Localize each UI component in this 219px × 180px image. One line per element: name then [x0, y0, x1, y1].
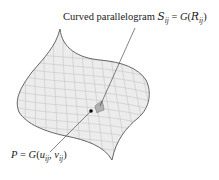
symbol-g: G [180, 11, 188, 22]
curved-surface-diagram: Curved parallelogram Sij = G(Rij) P = G(… [0, 0, 219, 180]
equals-sign: = [17, 149, 28, 160]
label-prefix: Curved parallelogram [63, 11, 157, 22]
symbol-r: R [191, 10, 199, 22]
subscript-ij: ij [199, 16, 203, 25]
equals-sign: = [169, 11, 180, 22]
close-paren: ) [63, 149, 67, 160]
curved-parallelogram-label: Curved parallelogram Sij = G(Rij) [63, 11, 207, 23]
subscript-ij: ij [59, 154, 63, 163]
symbol-s: S [157, 10, 164, 22]
close-paren: ) [203, 11, 207, 22]
subscript-ij: ij [165, 16, 169, 25]
point-p-label: P = G(uij, vij) [11, 150, 67, 161]
subscript-ij: ij [45, 154, 49, 163]
